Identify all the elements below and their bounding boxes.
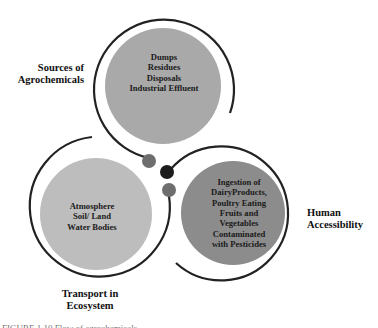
transport-label: Transport in Ecosystem bbox=[60, 288, 120, 312]
connector-dot-center bbox=[160, 165, 174, 179]
transport-content-line: Soil/ Land bbox=[50, 211, 134, 221]
sources-label: Sources of Agrochemicals bbox=[14, 62, 84, 86]
connector-dot-bottom bbox=[162, 183, 176, 197]
sources-content: Dumps Residues Disposals Industrial Effl… bbox=[112, 52, 216, 93]
human-content-line: Ingestion of bbox=[197, 177, 281, 187]
sources-label-line-1: Sources of bbox=[14, 62, 84, 74]
transport-label-line-2: Ecosystem bbox=[60, 300, 120, 312]
sources-content-line: Residues bbox=[112, 62, 216, 72]
transport-label-line-1: Transport in bbox=[60, 288, 120, 300]
sources-content-line: Disposals bbox=[112, 73, 216, 83]
agrochemical-cycle-diagram bbox=[0, 0, 378, 328]
human-content: Ingestion of DairyProducts, Poultry Eati… bbox=[197, 177, 281, 249]
human-label: Human Accessibility bbox=[307, 207, 363, 231]
human-content-line: DairyProducts, bbox=[197, 187, 281, 197]
human-content-line: Vegetables bbox=[197, 218, 281, 228]
human-label-line-2: Accessibility bbox=[307, 219, 363, 231]
transport-content: Atmosphere Soil/ Land Water Bodies bbox=[50, 201, 134, 232]
connector-dot-top bbox=[142, 154, 156, 168]
sources-label-line-2: Agrochemicals bbox=[14, 74, 84, 86]
human-content-line: Fruits and bbox=[197, 208, 281, 218]
sources-content-line: Dumps bbox=[112, 52, 216, 62]
transport-content-line: Water Bodies bbox=[50, 222, 134, 232]
human-content-line: with Pesticides bbox=[197, 239, 281, 249]
human-label-line-1: Human bbox=[307, 207, 363, 219]
sources-content-line: Industrial Effluent bbox=[112, 83, 216, 93]
human-content-line: Poultry Eating bbox=[197, 198, 281, 208]
figure-caption: FIGURE 1.10 Flow of agrochemicals... bbox=[2, 322, 144, 328]
human-content-line: Contaminated bbox=[197, 229, 281, 239]
transport-content-line: Atmosphere bbox=[50, 201, 134, 211]
